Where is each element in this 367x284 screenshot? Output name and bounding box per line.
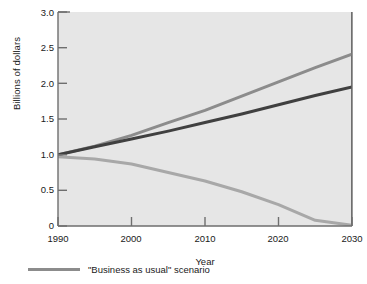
y-tick-marks (58, 12, 67, 226)
x-tick-label: 2000 (108, 233, 154, 244)
x-tick-label: 2030 (329, 233, 367, 244)
x-tick-label: 1990 (35, 233, 81, 244)
chart-figure: Billions of dollars 3.0 2.5 2.0 1.5 1.0 … (0, 0, 367, 284)
x-tick-label: 2010 (182, 233, 228, 244)
x-tick-marks (58, 217, 352, 226)
chart-legend: "Business as usual" scenario (28, 264, 210, 275)
legend-label: "Business as usual" scenario (88, 264, 210, 275)
legend-color-swatch (28, 268, 80, 271)
x-tick-label: 2020 (255, 233, 301, 244)
